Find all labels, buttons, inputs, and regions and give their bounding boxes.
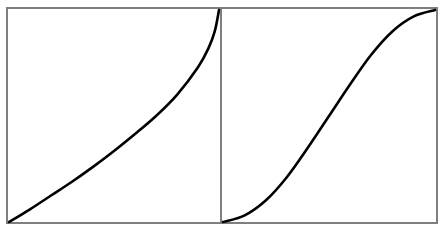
chart-figure	[0, 0, 441, 233]
right-curve-line	[223, 10, 435, 222]
chart-canvas	[0, 0, 441, 233]
right-panel	[221, 8, 437, 223]
left-panel	[7, 8, 221, 223]
left-curve-line	[9, 10, 219, 222]
left-panel-frame	[7, 8, 221, 223]
